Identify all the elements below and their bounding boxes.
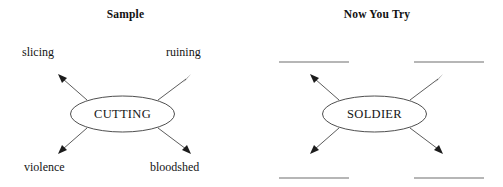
sample-branch-label-top-left: slicing: [22, 45, 54, 59]
practice-word-web-graphic: [251, 0, 503, 187]
sample-word-web-graphic: [0, 0, 251, 187]
sample-connector-bottom-left: [58, 128, 87, 154]
practice-connector-top-left: [310, 74, 339, 100]
sample-connector-top-left: [58, 74, 87, 100]
sample-connector-bottom-right: [158, 128, 191, 154]
sample-panel: Sample CUTTING slicing ruining violence …: [0, 0, 251, 187]
practice-panel: Now You Try SOLDIER: [251, 0, 503, 187]
sample-branch-label-bottom-right: bloodshed: [150, 160, 199, 174]
sample-branch-label-top-right: ruining: [166, 45, 201, 59]
sample-connector-top-right: [158, 74, 191, 100]
sample-branch-label-bottom-left: violence: [24, 160, 65, 174]
practice-connector-top-right: [410, 74, 443, 100]
sample-center-label: CUTTING: [63, 107, 183, 121]
practice-center-label: SOLDIER: [315, 107, 435, 121]
practice-connector-bottom-left: [310, 128, 339, 154]
practice-connector-bottom-right: [410, 128, 443, 154]
